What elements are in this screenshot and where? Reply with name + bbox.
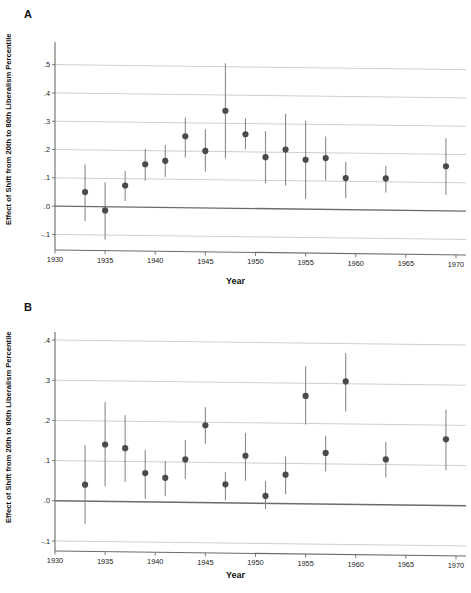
- data-point-marker: [202, 148, 208, 154]
- x-tick-label: 1955: [297, 559, 313, 568]
- gridline: [55, 380, 466, 385]
- panel-a-y-axis-label: Effect of Shift from 20th to 80th Libera…: [0, 22, 18, 237]
- data-point-marker: [102, 207, 108, 213]
- y-tick-label: .0: [44, 496, 50, 505]
- data-point-marker: [343, 175, 349, 181]
- data-point-marker: [282, 146, 288, 152]
- x-axis-line: [55, 250, 466, 255]
- x-tick-label: 1945: [197, 257, 213, 266]
- x-tick-label: 1950: [247, 257, 263, 266]
- data-point-marker: [383, 456, 389, 462]
- data-point-marker: [202, 422, 208, 428]
- x-tick-label: 1930: [47, 556, 63, 565]
- gridline: [55, 121, 466, 126]
- y-tick-label: .4: [44, 336, 50, 345]
- x-axis-line: [55, 551, 466, 556]
- data-point-marker: [162, 475, 168, 481]
- gridline: [55, 340, 466, 345]
- y-tick-label: .0: [44, 202, 50, 211]
- data-point-marker: [122, 445, 128, 451]
- data-point-marker: [383, 175, 389, 181]
- x-tick-label: 1930: [47, 255, 63, 264]
- y-tick-label: .5: [44, 60, 50, 69]
- data-point-marker: [82, 189, 88, 195]
- gridline: [55, 420, 466, 425]
- data-point-marker: [282, 472, 288, 478]
- gridline: [55, 150, 466, 155]
- x-tick-label: 1960: [348, 560, 364, 569]
- gridline: [55, 178, 466, 183]
- x-tick-label: 1970: [448, 260, 464, 269]
- x-tick-label: 1970: [448, 561, 464, 570]
- panel-b-plot-area: .4.3.2.1.0-.1193019351940194519501955196…: [18, 308, 468, 558]
- x-tick-label: 1935: [97, 557, 113, 566]
- data-point-marker: [82, 482, 88, 488]
- data-point-marker: [443, 163, 449, 169]
- x-tick-label: 1935: [97, 256, 113, 265]
- x-tick-label: 1965: [398, 259, 414, 268]
- gridline: [55, 541, 466, 546]
- y-tick-label: .3: [44, 376, 50, 385]
- figure-two-panel-coefficient-plot: A Effect of Shift from 20th to 80th Libe…: [0, 0, 471, 593]
- zero-reference-line: [55, 501, 466, 506]
- y-tick-label: .4: [44, 89, 50, 98]
- data-point-marker: [222, 108, 228, 114]
- y-tick-label: .1: [44, 173, 50, 182]
- data-point-marker: [443, 436, 449, 442]
- data-point-marker: [122, 182, 128, 188]
- x-tick-label: 1965: [398, 560, 414, 569]
- y-tick-label: -.1: [41, 230, 50, 239]
- y-tick-label: .2: [44, 416, 50, 425]
- gridline: [55, 93, 466, 98]
- x-tick-label: 1945: [197, 558, 213, 567]
- panel-a: A Effect of Shift from 20th to 80th Libe…: [0, 0, 471, 300]
- zero-reference-line: [55, 206, 466, 211]
- y-tick-label: .3: [44, 117, 50, 126]
- panel-b-x-axis-label: Year: [0, 570, 471, 580]
- data-point-marker: [142, 161, 148, 167]
- data-point-marker: [102, 441, 108, 447]
- panel-a-plot-area: .5.4.3.2.1.0-.11930193519401945195019551…: [18, 14, 468, 264]
- data-point-marker: [262, 493, 268, 499]
- x-tick-label: 1940: [147, 557, 163, 566]
- data-point-marker: [343, 378, 349, 384]
- data-point-marker: [142, 470, 148, 476]
- y-tick-label: .1: [44, 456, 50, 465]
- data-point-marker: [262, 154, 268, 160]
- gridline: [55, 234, 466, 239]
- gridline: [55, 65, 466, 70]
- data-point-marker: [222, 481, 228, 487]
- x-tick-label: 1950: [247, 558, 263, 567]
- data-point-marker: [242, 453, 248, 459]
- data-point-marker: [182, 456, 188, 462]
- data-point-marker: [323, 155, 329, 161]
- data-point-marker: [242, 131, 248, 137]
- panel-a-x-axis-label: Year: [0, 276, 471, 286]
- y-tick-label: -.1: [41, 537, 50, 546]
- data-point-marker: [303, 157, 309, 163]
- x-tick-label: 1960: [348, 259, 364, 268]
- panel-b: B Effect of Shift from 20th to 80th Libe…: [0, 298, 471, 593]
- x-tick-label: 1940: [147, 256, 163, 265]
- data-point-marker: [323, 450, 329, 456]
- panel-b-y-axis-label: Effect of Shift from 20th to 80th Libera…: [0, 316, 18, 538]
- data-point-marker: [182, 133, 188, 139]
- data-point-marker: [162, 158, 168, 164]
- data-point-marker: [303, 393, 309, 399]
- y-tick-label: .2: [44, 145, 50, 154]
- gridline: [55, 461, 466, 466]
- x-tick-label: 1955: [297, 258, 313, 267]
